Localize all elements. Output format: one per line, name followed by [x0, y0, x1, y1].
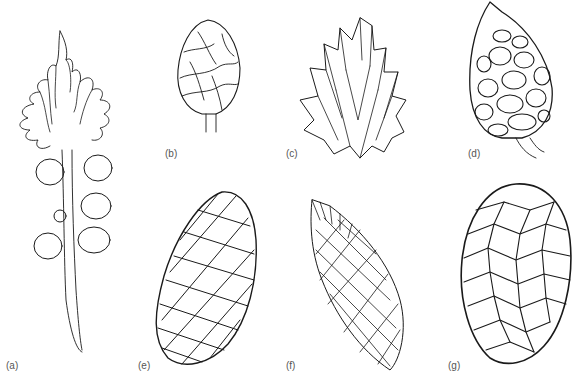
- panel-c: (c): [280, 0, 430, 170]
- panel-b: (b): [150, 0, 270, 170]
- overlapping-scale-cone-drawing: [420, 180, 577, 379]
- panel-label-b: (b): [165, 148, 177, 159]
- panel-label-d: (d): [468, 148, 480, 159]
- panel-label-f: (f): [286, 360, 295, 371]
- panel-a: (a): [0, 0, 140, 379]
- bracted-cone-drawing: [280, 0, 430, 170]
- shoot-with-seeds-drawing: [0, 0, 140, 379]
- panel-label-c: (c): [286, 148, 298, 159]
- panel-e: (e): [140, 180, 290, 379]
- panel-label-e: (e): [138, 360, 150, 371]
- ovoid-cone-drawing: [150, 0, 270, 170]
- cone-illustration-figure: (a) (b) (c): [0, 0, 577, 379]
- panel-label-g: (g): [448, 360, 460, 371]
- panel-d: (d): [440, 0, 577, 170]
- panel-f: (f): [290, 180, 420, 379]
- panel-label-a: (a): [6, 360, 18, 371]
- panel-g: (g): [420, 180, 577, 379]
- hexagonal-scale-cone-drawing: [440, 0, 577, 170]
- spiny-scale-cone-drawing: [290, 180, 420, 379]
- rhomboid-scale-cone-drawing: [140, 180, 290, 379]
